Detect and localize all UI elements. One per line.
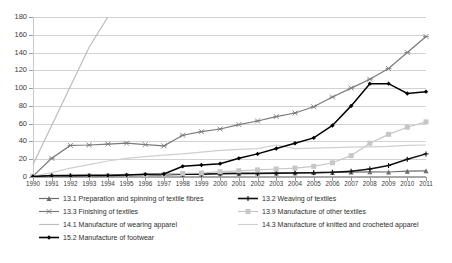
legend-item[interactable]: 13.3 Finishing of textiles: [38, 207, 138, 216]
data-point-star: [161, 143, 167, 148]
data-point-diamond: [181, 164, 185, 168]
data-point-star: [311, 104, 317, 109]
data-point-square: [199, 171, 204, 176]
y-axis-tick-label: 180: [0, 13, 27, 21]
data-point-star: [367, 77, 373, 82]
data-point-diamond: [424, 89, 428, 93]
legend-label: 14.1 Manufacture of wearing apparel: [63, 221, 177, 229]
data-point-star: [49, 156, 55, 161]
plot-area: [33, 17, 426, 177]
data-point-square: [236, 168, 241, 173]
data-point-square: [330, 160, 335, 165]
y-axis-tick-label: 60: [0, 120, 27, 128]
data-point-star: [199, 129, 205, 134]
data-point-square: [274, 167, 279, 172]
data-point-square: [246, 209, 251, 214]
data-point-square: [311, 164, 316, 169]
y-axis-tick-label: 100: [0, 84, 27, 92]
data-point-square: [349, 153, 354, 158]
data-point-plus: [349, 169, 354, 174]
legend-label: 14.3 Manufacture of knitted and crochete…: [262, 221, 418, 229]
data-point-star: [348, 86, 354, 91]
legend-label: 15.2 Manufacture of footwear: [63, 234, 154, 242]
data-point-square: [424, 119, 429, 124]
data-point-star: [423, 34, 429, 39]
data-point-square: [386, 132, 391, 137]
y-axis-tick-label: 160: [0, 31, 27, 39]
legend-item[interactable]: 14.3 Manufacture of knitted and crochete…: [237, 220, 418, 229]
y-axis-tick-label: 120: [0, 66, 27, 74]
legend-swatch-plus-icon: [237, 194, 259, 203]
data-point-star: [105, 142, 111, 147]
data-point-star: [142, 142, 148, 147]
data-point-star: [330, 95, 336, 100]
data-point-square: [255, 167, 260, 172]
legend-swatch-square-icon: [237, 207, 259, 216]
data-point-square: [218, 169, 223, 174]
gridline: [33, 177, 426, 178]
chart-legend: 13.1 Preparation and spinning of textile…: [0, 194, 452, 256]
legend-item[interactable]: 15.2 Manufacture of footwear: [38, 233, 154, 242]
data-point-plus: [246, 196, 251, 201]
data-point-diamond: [293, 141, 297, 145]
legend-item[interactable]: 13.9 Manufacture of other textiles: [237, 207, 366, 216]
data-point-diamond: [237, 156, 241, 160]
legend-item[interactable]: 13.2 Weaving of textiles: [237, 194, 336, 203]
legend-label: 13.1 Preparation and spinning of textile…: [63, 195, 203, 203]
data-point-square: [367, 141, 372, 146]
data-point-diamond: [218, 161, 222, 165]
legend-swatch-diamond-icon: [38, 233, 60, 242]
data-point-plus: [386, 163, 391, 168]
series-line: [33, 17, 108, 165]
data-point-star: [236, 122, 242, 127]
data-point-star: [46, 209, 52, 214]
data-point-star: [386, 66, 392, 71]
data-point-diamond: [47, 235, 51, 239]
y-axis-tick-label: 140: [0, 49, 27, 57]
data-point-diamond: [199, 163, 203, 167]
data-point-star: [180, 133, 186, 138]
data-point-plus: [405, 157, 410, 162]
data-point-star: [86, 143, 92, 148]
data-point-diamond: [255, 152, 259, 156]
y-axis-tick-label: 80: [0, 102, 27, 110]
data-point-star: [68, 143, 74, 148]
data-point-star: [217, 127, 223, 132]
data-point-star: [292, 111, 298, 116]
legend-label: 13.2 Weaving of textiles: [262, 195, 336, 203]
legend-swatch-star-icon: [38, 207, 60, 216]
legend-item[interactable]: 13.1 Preparation and spinning of textile…: [38, 194, 203, 203]
x-axis-tick-label: 2011: [414, 180, 438, 187]
data-point-plus: [367, 167, 372, 172]
legend-item[interactable]: 14.1 Manufacture of wearing apparel: [38, 220, 177, 229]
legend-label: 13.9 Manufacture of other textiles: [262, 208, 366, 216]
data-point-square: [293, 166, 298, 171]
data-point-star: [273, 114, 279, 119]
series-line: [31, 119, 429, 179]
line-chart: 020406080100120140160180 199019911992199…: [0, 0, 452, 263]
series-layer: [33, 17, 426, 177]
data-point-star: [124, 141, 130, 146]
data-point-diamond: [274, 146, 278, 150]
data-point-square: [180, 171, 185, 176]
data-point-star: [404, 50, 410, 55]
series-line: [30, 34, 429, 179]
legend-swatch-triangle-icon: [38, 194, 60, 203]
legend-swatch-none-icon: [237, 220, 259, 229]
y-axis-tick-label: 20: [0, 155, 27, 163]
y-axis-tick-label: 40: [0, 137, 27, 145]
data-point-plus: [424, 151, 429, 156]
data-point-square: [405, 125, 410, 130]
data-point-star: [255, 119, 261, 124]
legend-label: 13.3 Finishing of textiles: [63, 208, 138, 216]
legend-swatch-none-icon: [38, 220, 60, 229]
